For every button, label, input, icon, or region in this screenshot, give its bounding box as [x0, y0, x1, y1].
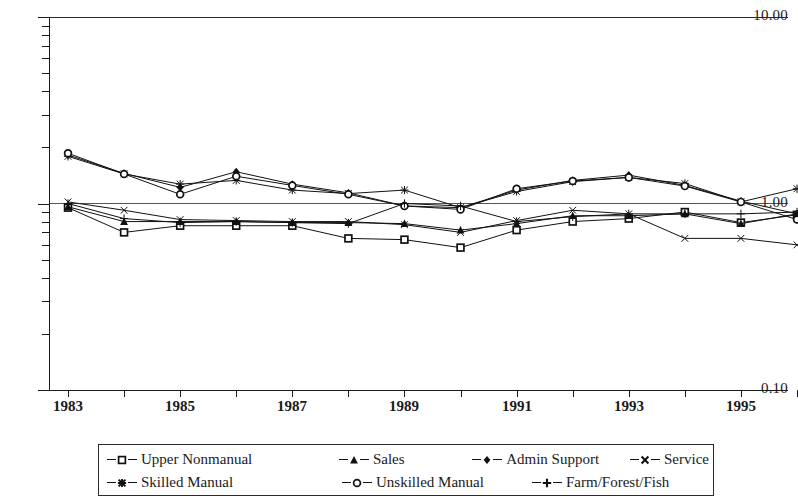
series-service [65, 198, 798, 248]
data-point-marker [121, 171, 128, 178]
data-point-marker [681, 183, 688, 190]
series-upper-nonmanual [65, 204, 798, 251]
data-point-marker [513, 185, 520, 192]
legend-marker-glyph [350, 476, 364, 490]
data-point-marker [793, 185, 798, 193]
data-point-marker [176, 180, 184, 188]
data-point-marker [512, 217, 520, 225]
legend-marker-glyph [480, 453, 494, 467]
legend-item-service[interactable]: Service [630, 448, 709, 471]
data-point-marker [513, 227, 520, 234]
plus-cross-icon [532, 476, 562, 490]
data-point-marker [121, 229, 128, 236]
square-open-icon [107, 453, 137, 467]
legend-item-label: Sales [369, 451, 405, 468]
legend-marker-glyph [115, 453, 129, 467]
data-point-marker [738, 198, 745, 205]
legend-item-label: Skilled Manual [137, 474, 233, 491]
data-point-marker [400, 186, 408, 194]
data-point-marker [457, 244, 464, 251]
data-point-marker [794, 216, 798, 223]
data-point-marker [345, 191, 352, 198]
series-farm-forest-fish [64, 199, 798, 228]
legend-item-admin-support[interactable]: Admin Support [472, 448, 630, 471]
legend-row-1: Upper NonmanualSalesAdmin SupportService [107, 448, 709, 471]
data-point-marker [65, 150, 72, 157]
data-point-marker [625, 174, 632, 181]
chart-legend: Upper NonmanualSalesAdmin SupportService… [98, 444, 714, 496]
legend-marker-glyph [638, 453, 652, 467]
data-point-marker [344, 219, 352, 227]
data-point-marker [737, 210, 745, 218]
circle-open-icon [342, 476, 372, 490]
legend-item-label: Unskilled Manual [372, 474, 484, 491]
star-burst-icon [107, 476, 137, 490]
x-cross-icon [630, 453, 660, 467]
legend-marker-glyph [347, 453, 361, 467]
legend-marker-glyph [540, 476, 554, 490]
legend-item-unskilled-manual[interactable]: Unskilled Manual [342, 471, 532, 494]
data-point-marker [233, 173, 240, 180]
data-point-marker [345, 235, 352, 242]
legend-item-farm-forest-fish[interactable]: Farm/Forest/Fish [532, 471, 669, 494]
legend-item-label: Upper Nonmanual [137, 451, 252, 468]
data-point-marker [177, 191, 184, 198]
series-skilled-manual [64, 152, 798, 212]
legend-item-sales[interactable]: Sales [339, 448, 472, 471]
diamond-filled-icon [472, 453, 502, 467]
data-point-marker [569, 178, 576, 185]
data-point-marker [401, 236, 408, 243]
legend-row-2: Skilled ManualUnskilled ManualFarm/Fores… [107, 471, 709, 494]
legend-item-skilled-manual[interactable]: Skilled Manual [107, 471, 342, 494]
legend-item-upper-nonmanual[interactable]: Upper Nonmanual [107, 448, 339, 471]
data-point-marker [289, 182, 296, 189]
triangle-filled-icon [339, 453, 369, 467]
legend-marker-glyph [115, 476, 129, 490]
legend-item-label: Admin Support [502, 451, 599, 468]
legend-item-label: Farm/Forest/Fish [562, 474, 669, 491]
legend-item-label: Service [660, 451, 709, 468]
